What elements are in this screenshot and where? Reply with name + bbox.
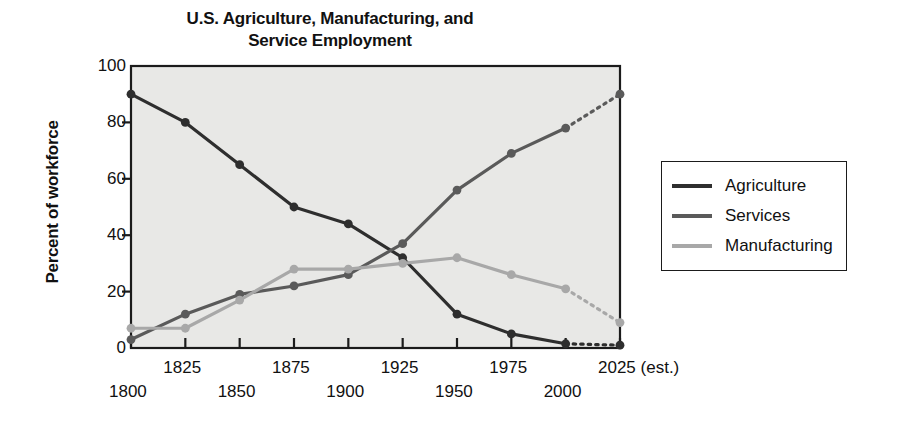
data-point-agriculture: [127, 90, 136, 99]
legend-item: Agriculture: [672, 171, 833, 201]
data-point-manufacturing: [453, 253, 462, 262]
legend-item: Services: [672, 201, 833, 231]
legend-item-label: Agriculture: [725, 176, 806, 196]
data-point-services: [398, 239, 407, 248]
data-point-manufacturing: [398, 259, 407, 268]
data-point-agriculture: [507, 330, 516, 339]
data-point-manufacturing: [507, 270, 516, 279]
data-point-agriculture: [616, 341, 625, 350]
chart-figure: U.S. Agriculture, Manufacturing, and Ser…: [0, 0, 913, 430]
data-point-manufacturing: [561, 284, 570, 293]
data-point-manufacturing: [181, 324, 190, 333]
data-point-services: [453, 186, 462, 195]
data-point-services: [507, 149, 516, 158]
data-point-agriculture: [561, 339, 570, 348]
data-point-services: [290, 282, 299, 291]
legend-item-label: Services: [725, 206, 790, 226]
data-point-agriculture: [235, 160, 244, 169]
legend-item-label: Manufacturing: [725, 236, 833, 256]
data-point-services: [616, 90, 625, 99]
data-point-agriculture: [344, 220, 353, 229]
legend-line-swatch: [672, 214, 712, 218]
data-point-manufacturing: [616, 318, 625, 327]
data-point-agriculture: [181, 118, 190, 127]
data-point-manufacturing: [290, 265, 299, 274]
data-point-agriculture: [290, 203, 299, 212]
legend-item: Manufacturing: [672, 231, 833, 261]
data-point-manufacturing: [127, 324, 136, 333]
data-point-manufacturing: [235, 296, 244, 305]
data-point-services: [561, 124, 570, 133]
data-point-services: [181, 310, 190, 319]
data-point-manufacturing: [344, 265, 353, 274]
legend-line-swatch: [672, 244, 712, 248]
chart-legend: AgricultureServicesManufacturing: [661, 161, 847, 271]
data-point-agriculture: [453, 310, 462, 319]
legend-line-swatch: [672, 184, 712, 188]
data-point-services: [127, 335, 136, 344]
